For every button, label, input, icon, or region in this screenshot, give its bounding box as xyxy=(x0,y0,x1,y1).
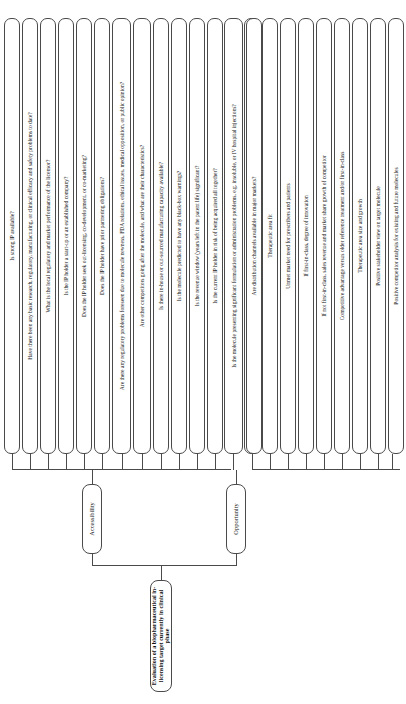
connector-leaf xyxy=(392,454,393,470)
category-accessibility: Accessibility xyxy=(82,484,102,554)
connector-leaf xyxy=(66,454,67,470)
connector-leaf xyxy=(84,454,85,470)
connector-leaf xyxy=(215,454,216,470)
connector-accessibility-stem xyxy=(92,470,93,484)
connector-leaf xyxy=(48,454,49,470)
connector-leaf xyxy=(142,454,143,470)
list-item: Therapeutic area size and growth xyxy=(352,18,368,454)
list-item: Is the molecule presenting significant f… xyxy=(224,18,243,454)
list-item: If not first-in-class, sales revenue and… xyxy=(316,18,332,454)
list-item: Does the IP holder have prior partnering… xyxy=(94,18,110,454)
list-item: Is the molecule predicted to have any bl… xyxy=(171,18,187,454)
list-item: Is strong IP available? xyxy=(4,18,20,454)
list-item: Positive competitor analysis for existin… xyxy=(388,18,404,454)
connector-leaf xyxy=(378,454,379,470)
connector-accessibility-spine-2 xyxy=(96,469,202,470)
connector-accessibility-spine-3 xyxy=(197,469,231,470)
root-node: Evaluation of a biopharmaceutical in-lic… xyxy=(150,580,172,692)
connector-leaf xyxy=(12,454,13,470)
connector-leaf xyxy=(161,454,162,470)
connector-to-accessibility xyxy=(92,554,93,566)
connector-leaf xyxy=(30,454,31,470)
list-item: Is the current IP holder in risk of bein… xyxy=(207,18,223,454)
list-item: Have there been any basic research, regu… xyxy=(22,18,38,454)
list-item: If first-in-class, degree of innovation xyxy=(298,18,314,454)
connector-leaf xyxy=(197,454,198,470)
list-item: Therapeutic area fit xyxy=(262,18,278,454)
connector-leaf xyxy=(324,454,325,470)
list-item: Is there in-house or out-sourced manufac… xyxy=(153,18,169,454)
list-item: What is the local regulatory and market … xyxy=(40,18,56,454)
connector-leaf xyxy=(179,454,180,470)
diagram-canvas: Evaluation of a biopharmaceutical in-lic… xyxy=(0,0,406,704)
list-item: Is the revenue window (years left in the… xyxy=(189,18,205,454)
connector-leaf xyxy=(288,454,289,470)
connector-opportunity-stem xyxy=(236,470,237,484)
connector-root-trunk xyxy=(161,566,162,580)
list-item: Unmet market need for prescribers and pa… xyxy=(280,18,296,454)
connector-leaf xyxy=(252,454,253,470)
diagram-rotation-wrapper: Evaluation of a biopharmaceutical in-lic… xyxy=(0,0,406,704)
connector-to-opportunity xyxy=(236,554,237,566)
category-opportunity: Opportunity xyxy=(226,484,246,554)
connector-leaf xyxy=(270,454,271,470)
connector-opportunity-spine-2 xyxy=(392,469,400,470)
list-item: Positive stakeholder view on target mole… xyxy=(370,18,386,454)
connector-opportunity-spine xyxy=(252,469,392,470)
connector-root-split xyxy=(92,565,236,566)
list-item: Are other competitors going after the mo… xyxy=(133,18,151,454)
connector-leaf xyxy=(306,454,307,470)
connector-leaf xyxy=(233,454,234,470)
list-item: Is the IP holder a start-up or an establ… xyxy=(58,18,74,454)
connector-leaf xyxy=(122,454,123,470)
list-item: Are distribution channels available in m… xyxy=(246,18,262,454)
list-item: Does the IP holder seek out-licensing, c… xyxy=(76,18,92,454)
connector-leaf xyxy=(360,454,361,470)
list-item: Are there any regulatory problems forese… xyxy=(112,18,131,454)
list-item: Competitive advantage versus older refer… xyxy=(334,18,350,454)
connector-leaf xyxy=(342,454,343,470)
connector-leaf xyxy=(102,454,103,470)
